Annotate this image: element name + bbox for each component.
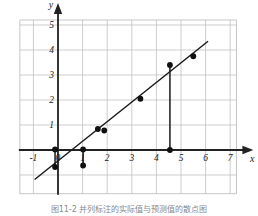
data-point <box>80 147 86 153</box>
plot-canvas: -10123456712345xy <box>0 0 258 216</box>
data-point <box>80 163 86 169</box>
data-point <box>167 147 173 153</box>
residual-segments <box>55 65 170 167</box>
x-tick-label: 3 <box>128 153 134 163</box>
y-tick-label: 4 <box>49 45 54 55</box>
y-tick-label: 5 <box>49 20 54 30</box>
x-axis-label: x <box>249 153 255 164</box>
y-tick-label: 1 <box>49 120 54 130</box>
data-point <box>52 147 58 153</box>
y-tick-label: 3 <box>48 70 54 80</box>
y-tick-label: 2 <box>49 95 54 105</box>
figure-caption: 图11-2 并列标注的实际值与预测值的散点图 <box>0 205 258 214</box>
x-tick-label: 6 <box>203 153 208 163</box>
scatter-plot-figure: -10123456712345xy 图11-2 并列标注的实际值与预测值的散点图 <box>0 0 258 216</box>
data-points <box>52 53 196 170</box>
x-tick-label: 4 <box>154 153 159 163</box>
x-tick-label: 7 <box>228 153 234 163</box>
data-point <box>190 53 196 59</box>
x-tick-label: 2 <box>105 153 110 163</box>
data-point <box>167 62 173 68</box>
x-tick-label: -1 <box>29 153 37 163</box>
y-axis-arrow-icon <box>54 3 62 14</box>
data-point <box>52 164 58 170</box>
data-point <box>95 126 101 132</box>
x-tick-label: 5 <box>179 153 184 163</box>
y-axis-label: y <box>48 0 54 10</box>
data-point <box>138 96 144 102</box>
axis-titles: xy <box>48 0 255 164</box>
data-point <box>101 128 107 134</box>
